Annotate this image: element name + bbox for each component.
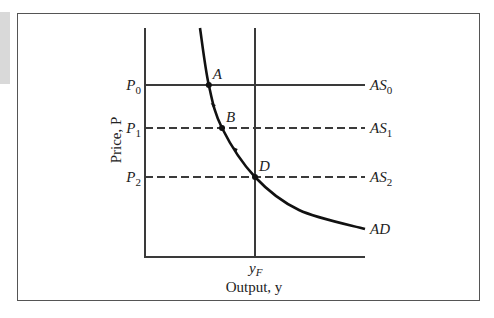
series-label-AS2: AS2: [369, 169, 392, 188]
point-B: [219, 125, 225, 131]
point-label-D: D: [258, 158, 270, 174]
ad-as-chart: Price, P Output, y P0P1P2yFAS0AS1AS2ADAB…: [0, 0, 494, 318]
series-label-AS1: AS1: [369, 120, 392, 139]
y-tick-label-2: P2: [125, 169, 141, 188]
x-tick-label-0: yF: [247, 260, 263, 278]
y-tick-label-1: P1: [125, 120, 141, 139]
marks: [145, 28, 365, 257]
series-label-AS0: AS0: [369, 77, 393, 96]
series-label-AD: AD: [369, 221, 390, 237]
labels: Price, P Output, y P0P1P2yFAS0AS1AS2ADAB…: [108, 66, 393, 295]
point-label-A: A: [212, 66, 223, 82]
x-axis-label: Output, y: [226, 279, 283, 295]
y-axis-label: Price, P: [108, 117, 124, 164]
y-tick-label-0: P0: [125, 77, 141, 96]
point-D: [252, 174, 258, 180]
point-A: [206, 82, 212, 88]
point-label-B: B: [226, 109, 235, 125]
